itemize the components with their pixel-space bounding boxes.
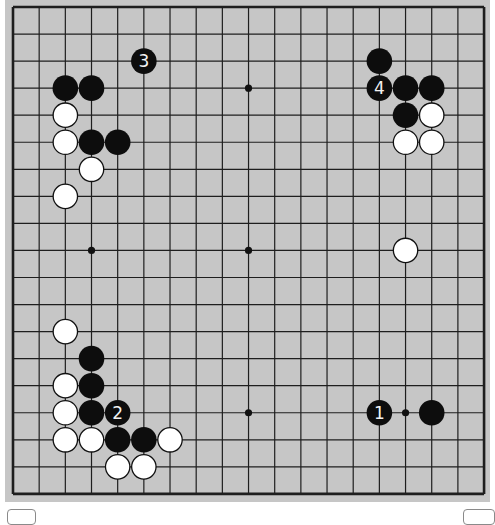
black-stone-icon — [131, 427, 157, 453]
white-stone-icon — [53, 428, 77, 452]
star-point-icon — [245, 247, 252, 254]
white-stone — [158, 428, 182, 452]
black-stone-icon — [105, 129, 131, 155]
black-stone: 1 — [367, 400, 393, 426]
star-point-icon — [402, 409, 409, 416]
move-number-label: 3 — [138, 51, 149, 71]
black-stone — [105, 427, 131, 453]
black-stone-icon — [419, 75, 445, 101]
white-stone — [393, 238, 417, 262]
black-stone-icon — [79, 129, 105, 155]
black-stone-icon — [393, 75, 419, 101]
black-stone-icon — [79, 346, 105, 372]
white-stone — [105, 455, 129, 479]
black-stone — [79, 129, 105, 155]
star-point-icon — [245, 85, 252, 92]
white-stone — [53, 103, 77, 127]
footer-left-box — [7, 509, 36, 525]
white-stone-icon — [158, 428, 182, 452]
star-point-icon — [245, 409, 252, 416]
white-stone — [53, 374, 77, 398]
white-stone — [53, 184, 77, 208]
black-stone — [79, 75, 105, 101]
white-stone-icon — [420, 130, 444, 154]
black-stone — [79, 400, 105, 426]
white-stone — [53, 428, 77, 452]
black-stone — [79, 346, 105, 372]
white-stone-icon — [53, 319, 77, 343]
white-stone — [420, 130, 444, 154]
white-stone — [393, 130, 417, 154]
black-stone: 2 — [105, 400, 131, 426]
star-point-icon — [88, 247, 95, 254]
black-stone-icon — [79, 373, 105, 399]
black-stone — [105, 129, 131, 155]
white-stone-icon — [53, 130, 77, 154]
white-stone — [79, 428, 103, 452]
move-number-label: 1 — [374, 403, 385, 423]
white-stone-icon — [53, 401, 77, 425]
white-stone — [53, 319, 77, 343]
white-stone — [420, 103, 444, 127]
black-stone: 3 — [131, 48, 157, 74]
black-stone — [419, 75, 445, 101]
black-stone — [393, 75, 419, 101]
move-number-label: 2 — [112, 403, 123, 423]
footer-right-box — [463, 509, 495, 525]
black-stone-icon — [419, 400, 445, 426]
black-stone: 4 — [367, 75, 393, 101]
black-stone-icon — [53, 75, 79, 101]
white-stone — [79, 157, 103, 181]
white-stone — [53, 130, 77, 154]
black-stone — [393, 102, 419, 128]
black-stone — [79, 373, 105, 399]
black-stone-icon — [367, 48, 393, 74]
white-stone-icon — [132, 455, 156, 479]
white-stone-icon — [393, 238, 417, 262]
white-stone-icon — [79, 157, 103, 181]
white-stone-icon — [393, 130, 417, 154]
black-stone-icon — [79, 400, 105, 426]
black-stone-icon — [105, 427, 131, 453]
black-stone-icon — [79, 75, 105, 101]
move-number-label: 4 — [374, 78, 385, 98]
white-stone-icon — [53, 374, 77, 398]
black-stone — [131, 427, 157, 453]
black-stone — [53, 75, 79, 101]
black-stone — [367, 48, 393, 74]
white-stone-icon — [53, 103, 77, 127]
black-stone — [419, 400, 445, 426]
white-stone-icon — [420, 103, 444, 127]
white-stone — [53, 401, 77, 425]
white-stone-icon — [79, 428, 103, 452]
white-stone-icon — [105, 455, 129, 479]
white-stone — [132, 455, 156, 479]
white-stone-icon — [53, 184, 77, 208]
black-stone-icon — [393, 102, 419, 128]
